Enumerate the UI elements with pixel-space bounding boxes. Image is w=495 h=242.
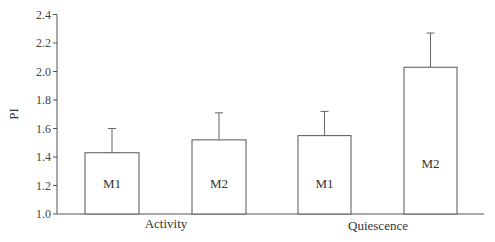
bar-activity-m1: M1 — [85, 129, 139, 215]
bar-rect — [298, 136, 351, 214]
bar-rect — [404, 67, 457, 214]
y-axis: 1.01.21.41.61.82.02.22.4 — [36, 8, 57, 222]
bar-label: M1 — [315, 176, 333, 191]
bars: M1M2M1M2 — [85, 33, 457, 214]
y-tick-label: 2.4 — [36, 8, 51, 22]
category-label-activity: Activity — [145, 216, 188, 231]
y-tick-label: 2.2 — [36, 36, 51, 50]
y-tick-label: 1.6 — [36, 122, 51, 136]
y-tick-label: 1.4 — [36, 150, 51, 164]
bar-label: M1 — [103, 176, 121, 191]
bar-label: M2 — [421, 156, 439, 171]
bar-label: M2 — [210, 176, 228, 191]
y-tick-label: 1.8 — [36, 93, 51, 107]
bar-chart: 1.01.21.41.61.82.02.22.4 M1M2M1M2 PI Act… — [0, 0, 495, 242]
bar-quiescence-m2: M2 — [404, 33, 457, 214]
bar-activity-m2: M2 — [192, 113, 246, 214]
y-axis-label: PI — [6, 108, 21, 120]
bar-quiescence-m1: M1 — [298, 111, 351, 214]
y-tick-label: 1.0 — [36, 207, 51, 221]
category-label-quiescence: Quiescence — [348, 218, 408, 233]
y-tick-label: 1.2 — [36, 179, 51, 193]
y-tick-label: 2.0 — [36, 65, 51, 79]
